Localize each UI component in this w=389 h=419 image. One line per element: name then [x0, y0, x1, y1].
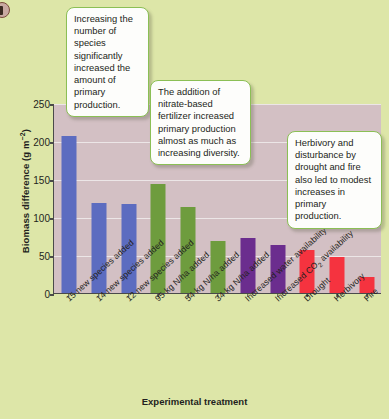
x-axis-tick-labels: 15 new species added14 new species added… [53, 296, 381, 391]
callout-nitrate-fertilizer: The addition of nitrate-based fertilizer… [150, 80, 251, 165]
figure-container: Biomass difference (g m−2) 0501001502002… [0, 0, 389, 419]
y-axis-tick-label: 200 [20, 137, 50, 148]
y-axis-tick-label: 0 [20, 289, 50, 300]
bar-slot [54, 104, 84, 293]
y-axis-tick-label: 150 [20, 175, 50, 186]
y-axis-tick-label: 250 [20, 99, 50, 110]
callout-herbivory-disturbance: Herbivory and disturbance by drought and… [287, 131, 382, 229]
y-axis-tick-labels: 050100150200250 [16, 0, 50, 419]
bar[interactable] [61, 136, 76, 293]
x-axis-title: Experimental treatment [0, 396, 389, 407]
panel-label-icon [0, 2, 10, 18]
callout-species-diversity: Increasing the number of species signifi… [66, 7, 149, 117]
y-axis-tick-label: 100 [20, 213, 50, 224]
y-axis-tick-label: 50 [20, 251, 50, 262]
